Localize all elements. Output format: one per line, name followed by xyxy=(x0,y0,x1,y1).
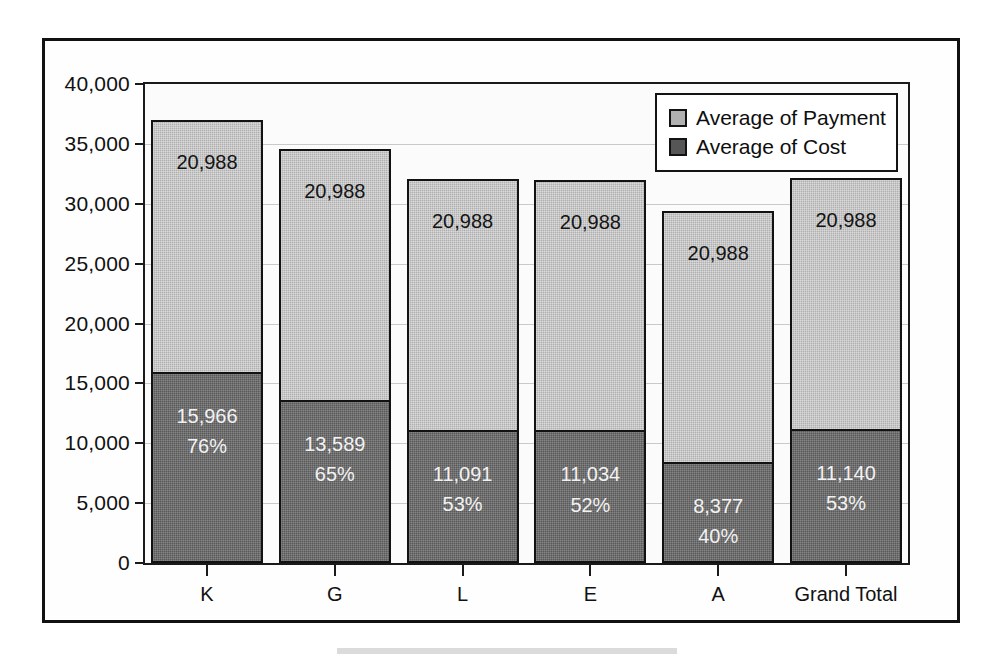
bar-segment-cost[interactable]: 11,09153% xyxy=(409,430,517,561)
bar-segment-cost[interactable]: 11,14053% xyxy=(792,429,900,561)
x-axis-category-label: E xyxy=(584,583,597,606)
bar-value-label-cost: 11,034 xyxy=(561,462,621,486)
bar-value-label-cost: 15,966 xyxy=(176,404,237,428)
x-axis-category-label: K xyxy=(200,583,213,606)
bar-percent-label-cost: 40% xyxy=(698,524,738,548)
x-axis-tick xyxy=(589,565,591,576)
y-axis-tick-label: 5,000 xyxy=(76,491,130,515)
bar-percent-label-cost: 53% xyxy=(443,492,483,516)
bar-segment-payment[interactable]: 20,988 xyxy=(664,213,772,461)
bar-group[interactable]: 20,98811,09153% xyxy=(407,84,519,563)
bar-stack[interactable]: 20,98811,14053% xyxy=(790,178,902,563)
bar-stack[interactable]: 20,98815,96676% xyxy=(151,120,263,563)
bar-segment-cost[interactable]: 13,58965% xyxy=(281,400,389,561)
y-axis-tick-label: 20,000 xyxy=(65,312,130,336)
bar-value-label-cost: 11,091 xyxy=(433,462,493,486)
y-axis-tick xyxy=(135,263,145,265)
bar-value-label-payment: 20,988 xyxy=(560,210,621,234)
bar-segment-payment[interactable]: 20,988 xyxy=(153,122,261,371)
bar-value-label-cost: 13,589 xyxy=(304,432,365,456)
bar-group[interactable]: 20,98811,03452% xyxy=(534,84,646,563)
x-axis-category-label: Grand Total xyxy=(794,583,897,606)
bar-segment-payment[interactable]: 20,988 xyxy=(409,181,517,430)
x-axis: KGLEAGrand Total xyxy=(143,565,910,623)
bar-value-label-cost: 8,377 xyxy=(693,494,743,518)
y-axis-tick-label: 40,000 xyxy=(65,72,130,96)
bar-segment-cost[interactable]: 15,96676% xyxy=(153,372,261,561)
x-axis-tick xyxy=(717,565,719,576)
bar-segment-cost[interactable]: 8,37740% xyxy=(664,462,772,561)
bar-percent-label-cost: 53% xyxy=(826,491,866,515)
y-axis-tick xyxy=(135,442,145,444)
scan-artifact xyxy=(337,648,677,654)
y-axis-tick-label: 35,000 xyxy=(65,132,130,156)
bar-segment-payment[interactable]: 20,988 xyxy=(281,151,389,400)
x-axis-category-label: L xyxy=(457,583,468,606)
y-axis-tick xyxy=(135,562,145,564)
bar-value-label-payment: 20,988 xyxy=(815,208,876,232)
bar-segment-payment[interactable]: 20,988 xyxy=(536,182,644,431)
legend-swatch-cost-icon xyxy=(669,138,687,156)
y-axis-tick xyxy=(135,502,145,504)
y-axis-tick-label: 30,000 xyxy=(65,192,130,216)
y-axis-tick xyxy=(135,143,145,145)
y-axis-tick xyxy=(135,203,145,205)
bar-group[interactable]: 20,98815,96676% xyxy=(151,84,263,563)
bar-segment-payment[interactable]: 20,988 xyxy=(792,180,900,429)
legend-swatch-payment-icon xyxy=(669,109,687,127)
legend-item-average-of-cost: Average of Cost xyxy=(669,132,884,161)
bar-percent-label-cost: 65% xyxy=(315,462,355,486)
bar-segment-cost[interactable]: 11,03452% xyxy=(536,430,644,561)
x-axis-category-label: A xyxy=(712,583,725,606)
y-axis-tick-label: 0 xyxy=(118,551,130,575)
bar-percent-label-cost: 76% xyxy=(187,434,227,458)
legend-label-cost: Average of Cost xyxy=(696,135,846,159)
bar-value-label-payment: 20,988 xyxy=(432,209,493,233)
y-axis-tick xyxy=(135,83,145,85)
bar-value-label-payment: 20,988 xyxy=(176,150,237,174)
bar-stack[interactable]: 20,98813,58965% xyxy=(279,149,391,563)
y-axis-tick-label: 10,000 xyxy=(65,431,130,455)
y-axis-tick xyxy=(135,382,145,384)
chart-legend: Average of Payment Average of Cost xyxy=(655,93,898,172)
legend-label-payment: Average of Payment xyxy=(696,106,886,130)
x-axis-tick xyxy=(845,565,847,576)
bar-stack[interactable]: 20,98811,03452% xyxy=(534,180,646,563)
x-axis-tick xyxy=(462,565,464,576)
bar-value-label-cost: 11,140 xyxy=(816,461,876,485)
x-axis-category-label: G xyxy=(327,583,343,606)
bar-group[interactable]: 20,98813,58965% xyxy=(279,84,391,563)
bar-stack[interactable]: 20,98811,09153% xyxy=(407,179,519,563)
bar-value-label-payment: 20,988 xyxy=(304,179,365,203)
x-axis-tick xyxy=(206,565,208,576)
y-axis-tick xyxy=(135,323,145,325)
legend-item-average-of-payment: Average of Payment xyxy=(669,103,884,132)
bar-percent-label-cost: 52% xyxy=(570,493,610,517)
bar-stack[interactable]: 20,9888,37740% xyxy=(662,211,774,563)
bar-value-label-payment: 20,988 xyxy=(688,241,749,265)
x-axis-tick xyxy=(334,565,336,576)
y-axis-tick-label: 25,000 xyxy=(65,252,130,276)
y-axis-tick-label: 15,000 xyxy=(65,371,130,395)
